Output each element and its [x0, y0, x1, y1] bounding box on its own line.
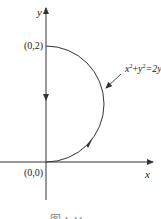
y-axis-label: y — [36, 6, 42, 18]
figure-caption: 图 1-11 — [50, 214, 84, 219]
point-label-0-0: (0,0) — [24, 167, 43, 179]
point-label-0-2: (0,2) — [24, 40, 43, 52]
arc-direction-arrow-icon — [87, 138, 94, 148]
semicircle-curve — [46, 46, 104, 162]
leader-line — [106, 74, 121, 88]
y-axis-down-arrow-icon — [43, 94, 49, 101]
diagram-canvas: y x (0,2) (0,0) x2+y2=2y 图 1-11 — [0, 0, 161, 219]
curve-equation-label: x2+y2=2y — [124, 63, 161, 74]
x-axis-label: x — [144, 168, 150, 180]
